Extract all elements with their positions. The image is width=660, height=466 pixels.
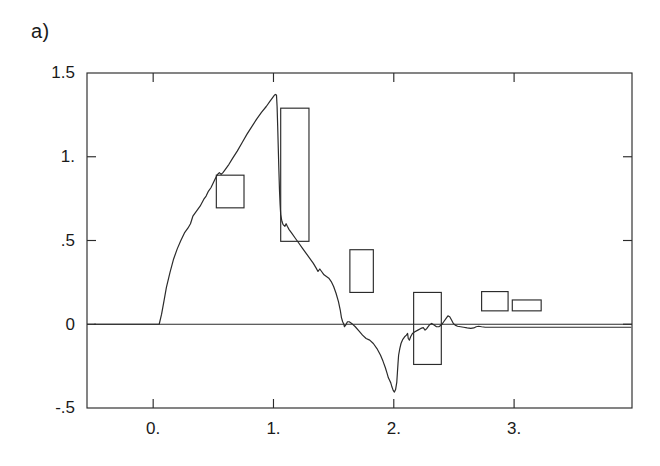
y-tick-label: 1. [61, 147, 75, 166]
panel-label: a) [31, 20, 50, 43]
y-tick-label: -.5 [55, 398, 75, 417]
y-axis-tick-labels: -.50.51.1.5 [51, 63, 75, 417]
x-tick-label: 2. [387, 419, 401, 438]
figure-panel: a) -.50.51.1.5 0.1.2.3. [0, 0, 660, 466]
box-at-0p5 [216, 175, 244, 208]
x-axis-tick-labels: 0.1.2.3. [146, 419, 521, 438]
axis-tick-marks [87, 73, 632, 408]
box-at-2p7 [512, 300, 541, 311]
box-at-1p5 [350, 250, 373, 293]
x-tick-label: 3. [507, 419, 521, 438]
series-line-signal [94, 94, 631, 392]
annotation-boxes [216, 108, 541, 364]
x-tick-label: 1. [266, 419, 280, 438]
data-curve [94, 94, 631, 392]
box-at-1p0 [281, 108, 309, 241]
y-tick-label: 0 [66, 315, 75, 334]
plot-frame-border [87, 73, 632, 408]
x-tick-label: 0. [146, 419, 160, 438]
y-tick-label: .5 [61, 231, 75, 250]
chart-plot-area: -.50.51.1.5 0.1.2.3. [0, 0, 660, 466]
y-tick-label: 1.5 [51, 63, 75, 82]
box-at-2p45 [482, 292, 508, 311]
